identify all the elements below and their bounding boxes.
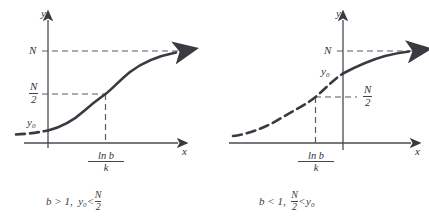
right-caption-N-half-numerator: N — [291, 190, 298, 201]
right-caption-y0-subscript: 0 — [311, 201, 315, 209]
right-ytick-N-half: N 2 — [363, 84, 372, 108]
right-caption-operator: < — [298, 195, 306, 207]
right-caption-y0: y0 — [306, 195, 314, 207]
left-ytick-N-half-denominator: 2 — [29, 94, 38, 106]
left-graph-canvas — [0, 0, 214, 218]
left-caption-condition-1: b > 1 — [46, 195, 70, 207]
left-caption: b > 1, y0<N2 — [46, 190, 101, 212]
panel-left: y x N N 2 y0 ln b k b > 1, y0<N2 — [0, 0, 214, 218]
right-curve-dashed — [233, 74, 343, 137]
left-ytick-N-half: N 2 — [29, 81, 38, 105]
left-caption-y0: y0 — [78, 195, 86, 207]
right-curve-solid — [343, 52, 409, 74]
right-xtick-lnb-over-k: ln b k — [298, 150, 334, 173]
right-ytick-y0: y0 — [321, 66, 329, 79]
left-xtick-lnb-over-k: ln b k — [88, 150, 124, 173]
right-ytick-N-half-numerator: N — [363, 84, 372, 96]
right-xtick-numerator: ln b — [298, 150, 334, 161]
right-caption-condition-1: b < 1 — [259, 195, 283, 207]
right-graph-canvas — [215, 0, 429, 218]
left-xtick-denominator: k — [88, 162, 124, 173]
left-caption-N-half-denominator: 2 — [95, 202, 102, 213]
right-y-axis-label: y — [336, 8, 341, 19]
left-curve-solid — [48, 53, 176, 131]
left-y-axis-label: y — [41, 8, 46, 19]
left-ytick-N-half-numerator: N — [29, 81, 38, 93]
right-ytick-y0-subscript: 0 — [326, 71, 330, 79]
left-ytick-y0-subscript: 0 — [32, 122, 36, 130]
left-xtick-numerator: ln b — [88, 150, 124, 161]
left-ytick-N: N — [29, 45, 36, 56]
left-ytick-y0: y0 — [27, 117, 35, 130]
right-xtick-denominator: k — [298, 162, 334, 173]
right-ytick-N: N — [324, 45, 331, 56]
right-caption-N-half-denominator: 2 — [291, 202, 298, 213]
right-x-axis-label: x — [415, 146, 420, 157]
right-caption-comma: , — [283, 195, 286, 207]
left-caption-N-half-numerator: N — [95, 190, 102, 201]
left-caption-comma: , — [70, 195, 73, 207]
right-caption: b < 1, N2<y0 — [259, 190, 314, 212]
panel-right: y x N y0 N 2 ln b k b < 1, N2<y0 — [215, 0, 429, 218]
left-caption-operator: < — [87, 195, 95, 207]
left-x-axis-label: x — [182, 146, 187, 157]
right-caption-N-half: N2 — [291, 190, 298, 212]
logistic-curves-figure: y x N N 2 y0 ln b k b > 1, y0<N2 — [0, 0, 429, 218]
left-caption-N-half: N2 — [95, 190, 102, 212]
left-curve-dashed — [16, 131, 48, 135]
right-ytick-N-half-denominator: 2 — [363, 97, 372, 109]
